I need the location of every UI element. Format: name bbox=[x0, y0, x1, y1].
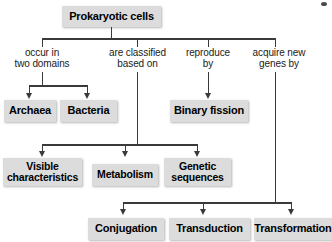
node-transduction: Transduction bbox=[169, 218, 250, 240]
connector-domains-bus bbox=[29, 85, 88, 87]
connector-bus-drop-acquire bbox=[275, 38, 277, 47]
node-genetic-sequences-label: Genetic sequences bbox=[164, 161, 231, 184]
node-genetic-sequences: Genetic sequences bbox=[164, 158, 231, 186]
node-prokaryotic-cells: Prokaryotic cells bbox=[62, 6, 161, 27]
arrow-metabolism bbox=[122, 151, 128, 157]
node-visible-characteristics: Visible characteristics bbox=[3, 158, 82, 186]
arrow-transduction bbox=[200, 209, 206, 215]
node-bacteria: Bacteria bbox=[60, 100, 117, 122]
node-transformation-label: Transformation bbox=[254, 223, 332, 235]
arrow-transformation bbox=[288, 209, 294, 215]
node-binary-fission-label: Binary fission bbox=[170, 105, 248, 117]
arrow-bacteria bbox=[84, 93, 90, 99]
label-are-classified-based-on: are classified based on bbox=[100, 47, 175, 69]
node-transformation: Transformation bbox=[254, 218, 332, 240]
node-visible-characteristics-label: Visible characteristics bbox=[3, 161, 82, 184]
label-reproduce-by: reproduce by bbox=[177, 47, 239, 69]
arrow-archaea bbox=[26, 93, 32, 99]
label-acquire-new-genes-by: acquire new genes by bbox=[243, 47, 315, 69]
connector-acquire-bus bbox=[123, 202, 291, 204]
node-conjugation: Conjugation bbox=[88, 218, 164, 240]
connector-domains-stem bbox=[42, 72, 44, 85]
connector-classified-stem bbox=[137, 72, 139, 144]
node-metabolism: Metabolism bbox=[92, 164, 158, 186]
label-occur-in-two-domains: occur in two domains bbox=[6, 47, 78, 69]
arrow-binary-fission bbox=[205, 93, 211, 99]
connector-classified-bus bbox=[42, 144, 197, 146]
connector-main-bus bbox=[42, 38, 276, 40]
arrow-conjugation bbox=[120, 209, 126, 215]
node-archaea-label: Archaea bbox=[4, 105, 56, 117]
node-bacteria-label: Bacteria bbox=[60, 105, 117, 117]
connector-binary-fission-stem bbox=[208, 72, 210, 94]
connector-acquire-stem bbox=[275, 72, 277, 202]
scan-artifact bbox=[321, 2, 327, 6]
node-binary-fission: Binary fission bbox=[170, 100, 248, 122]
node-conjugation-label: Conjugation bbox=[88, 223, 164, 235]
connector-root-stem bbox=[111, 27, 113, 38]
node-archaea: Archaea bbox=[4, 100, 56, 122]
node-prokaryotic-cells-label: Prokaryotic cells bbox=[62, 11, 161, 23]
connector-bus-drop-domains bbox=[42, 38, 44, 47]
connector-bus-drop-classified bbox=[137, 38, 139, 47]
node-metabolism-label: Metabolism bbox=[92, 169, 158, 180]
node-transduction-label: Transduction bbox=[169, 223, 250, 235]
arrow-visible-characteristics bbox=[39, 151, 45, 157]
arrow-genetic-sequences bbox=[194, 151, 200, 157]
connector-bus-drop-reproduce bbox=[208, 38, 210, 47]
